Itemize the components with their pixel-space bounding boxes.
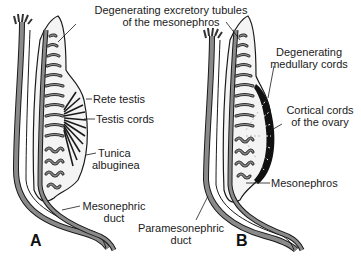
- label-line-2: duct: [134, 234, 228, 246]
- label-degenerating-medullary-cords: Degenerating medullary cords: [264, 46, 354, 70]
- label-mesonephric-duct: Mesonephric duct: [78, 200, 150, 224]
- label-rete-testis: Rete testis: [93, 93, 145, 105]
- label-line-2: medullary cords: [264, 58, 354, 70]
- label-line-1: Degenerating excretory tubules: [86, 4, 256, 16]
- label-testis-cords: Testis cords: [96, 113, 154, 125]
- label-line-2: of the ovary: [280, 116, 360, 128]
- label-line-1: Degenerating: [264, 46, 354, 58]
- panel-letter-a: A: [30, 232, 42, 250]
- label-degenerating-excretory-tubules: Degenerating excretory tubules of the me…: [86, 4, 256, 28]
- label-paramesonephric-duct: Paramesonephric duct: [134, 222, 228, 246]
- label-line-1: Cortical cords: [280, 104, 360, 116]
- label-tunica-albuginea: Tunica albuginea: [92, 147, 140, 171]
- diagram-artwork: [0, 0, 361, 259]
- label-line-1: Paramesonephric: [134, 222, 228, 234]
- label-line-1: Mesonephric: [78, 200, 150, 212]
- label-mesonephros: Mesonephros: [271, 177, 338, 189]
- label-line-2: albuginea: [92, 159, 140, 171]
- panel-letter-b: B: [236, 232, 248, 250]
- label-line-2: of the mesonephros: [86, 16, 256, 28]
- label-cortical-cords-of-ovary: Cortical cords of the ovary: [280, 104, 360, 128]
- embryology-diagram: Degenerating excretory tubules of the me…: [0, 0, 361, 259]
- label-line-1: Tunica: [92, 147, 140, 159]
